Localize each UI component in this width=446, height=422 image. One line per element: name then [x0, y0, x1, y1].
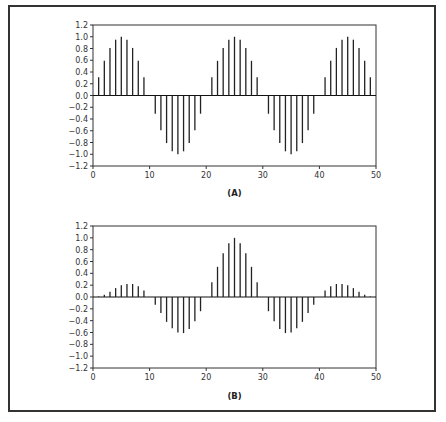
stem-plot-a: 1.21.00.80.60.40.20.0−0.2−0.4−0.6−0.8−1.… [69, 21, 382, 198]
y-tick-label: −0.2 [69, 305, 88, 314]
y-tick-label: 0.4 [75, 269, 88, 278]
y-tick-label: −1.0 [69, 150, 88, 159]
x-tick-label: 10 [145, 171, 155, 180]
x-tick-label: 0 [90, 171, 95, 180]
y-tick-label: −0.2 [69, 103, 88, 112]
x-tick-label: 0 [90, 373, 95, 382]
y-tick-label: 0.8 [75, 45, 88, 54]
x-tick-label: 20 [201, 373, 211, 382]
y-tick-label: −0.6 [69, 127, 88, 136]
y-tick-label: 1.2 [75, 21, 88, 30]
stem-plot-b: 1.21.00.80.60.40.20.0−0.2−0.4−0.6−0.8−1.… [69, 222, 382, 401]
y-tick-label: −0.4 [69, 115, 88, 124]
y-tick-label: 0.0 [75, 92, 88, 101]
panel-caption: (A) [227, 188, 241, 198]
x-tick-label: 20 [201, 171, 211, 180]
y-tick-label: −0.4 [69, 317, 88, 326]
y-tick-label: −1.2 [69, 364, 88, 373]
x-tick-label: 30 [258, 373, 268, 382]
y-tick-label: 0.4 [75, 68, 88, 77]
x-tick-label: 40 [314, 373, 324, 382]
y-tick-label: 1.2 [75, 222, 88, 231]
y-tick-label: 1.0 [75, 33, 88, 42]
y-tick-label: −0.6 [69, 329, 88, 338]
y-tick-label: −1.2 [69, 162, 88, 171]
x-tick-label: 50 [371, 171, 381, 180]
x-tick-label: 50 [371, 373, 381, 382]
y-tick-label: 0.2 [75, 80, 88, 89]
x-tick-label: 30 [258, 171, 268, 180]
panel-caption: (B) [227, 391, 241, 401]
y-tick-label: −1.0 [69, 352, 88, 361]
y-tick-label: −0.8 [69, 139, 88, 148]
y-tick-label: 0.6 [75, 258, 88, 267]
x-tick-label: 40 [314, 171, 324, 180]
y-tick-label: 0.8 [75, 246, 88, 255]
y-tick-label: 0.0 [75, 293, 88, 302]
x-tick-label: 10 [145, 373, 155, 382]
y-tick-label: 1.0 [75, 234, 88, 243]
y-tick-label: 0.6 [75, 56, 88, 65]
figure-canvas: 1.21.00.80.60.40.20.0−0.2−0.4−0.6−0.8−1.… [0, 0, 446, 422]
y-tick-label: −0.8 [69, 340, 88, 349]
y-tick-label: 0.2 [75, 281, 88, 290]
